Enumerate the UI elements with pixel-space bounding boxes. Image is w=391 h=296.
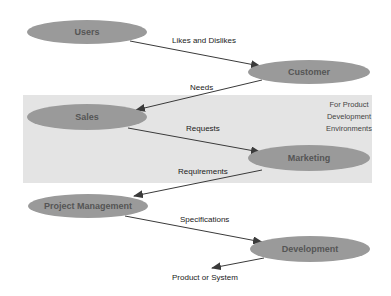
node-sales-label: Sales <box>75 112 99 122</box>
edge-label-needs: Needs <box>190 83 213 92</box>
node-development-label: Development <box>282 244 339 254</box>
edge-label-product-or-system: Product or System <box>172 273 238 282</box>
edge-label-specifications: Specifications <box>180 215 229 224</box>
flow-diagram: For Product Development Environments Lik… <box>0 0 391 296</box>
band-label-line-2: Development <box>327 112 372 121</box>
node-project-management-label: Project Management <box>44 201 132 211</box>
edge-label-requirements: Requirements <box>178 167 228 176</box>
node-users-label: Users <box>74 27 99 37</box>
node-customer-label: Customer <box>288 67 331 77</box>
band-label-line-1: For Product <box>329 100 369 109</box>
edge-label-likes-and-dislikes: Likes and Dislikes <box>172 36 236 45</box>
edge-label-requests: Requests <box>186 124 220 133</box>
node-marketing-label: Marketing <box>288 153 331 163</box>
edge-development-output <box>212 258 264 268</box>
band-label-line-3: Environments <box>326 124 372 133</box>
